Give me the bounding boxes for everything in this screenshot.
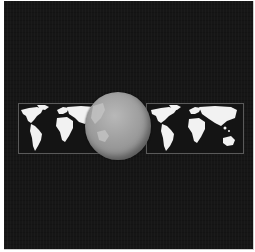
- globe-continents-icon: [85, 92, 151, 160]
- dark-background: [4, 1, 254, 250]
- world-map-icon: [147, 104, 243, 153]
- globe: [85, 92, 151, 160]
- world-map-right: [146, 103, 244, 154]
